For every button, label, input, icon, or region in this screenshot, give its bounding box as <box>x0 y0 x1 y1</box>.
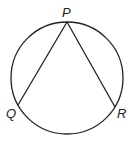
chord-pr <box>67 22 115 107</box>
point-label-r: R <box>117 107 126 120</box>
point-label-p: P <box>62 6 71 19</box>
chord-pq <box>18 22 67 105</box>
point-label-q: Q <box>6 107 16 120</box>
inscribed-angle-diagram <box>0 0 133 141</box>
circle <box>11 22 123 134</box>
